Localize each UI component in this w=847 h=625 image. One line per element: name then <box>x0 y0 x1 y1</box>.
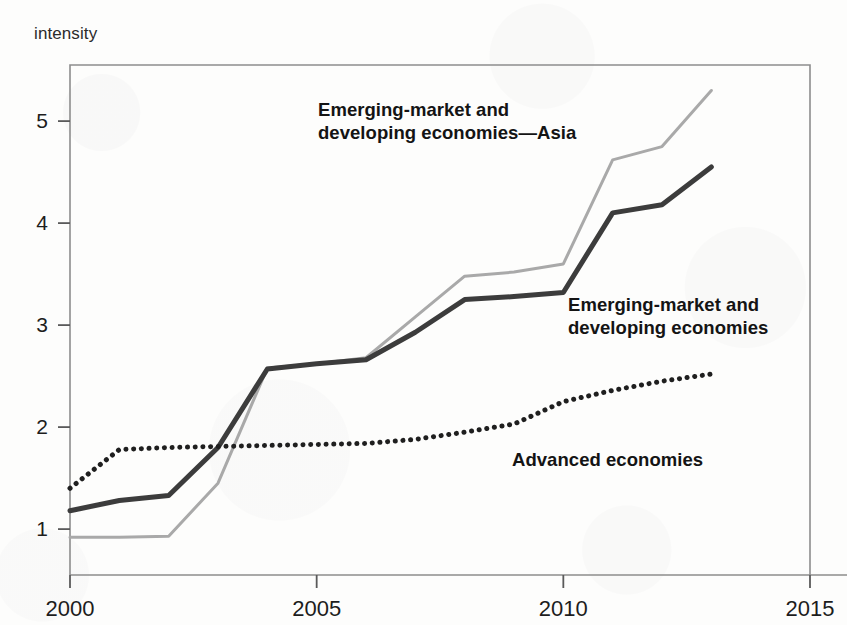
y-tick-label: 5 <box>36 109 48 132</box>
series-label-2: Advanced economies <box>512 449 703 470</box>
y-tick-label: 4 <box>36 211 48 234</box>
y-tick-label: 2 <box>36 415 48 438</box>
chart-figure: intensity 123452000200520102015 Emerging… <box>0 0 847 625</box>
x-tick-label: 2000 <box>46 596 95 621</box>
series-line-2 <box>70 374 711 488</box>
x-tick-label: 2015 <box>786 596 835 621</box>
x-tick-label: 2010 <box>539 596 588 621</box>
plot-canvas: 123452000200520102015 Emerging-market an… <box>0 0 847 625</box>
y-tick-label: 1 <box>36 517 48 540</box>
y-tick-label: 3 <box>36 313 48 336</box>
series-label-0: Emerging-market anddeveloping economies—… <box>318 99 577 143</box>
x-tick-label: 2005 <box>292 596 341 621</box>
series-annotations: Emerging-market anddeveloping economies—… <box>318 99 768 470</box>
series-label-1: Emerging-market anddeveloping economies <box>568 294 768 338</box>
